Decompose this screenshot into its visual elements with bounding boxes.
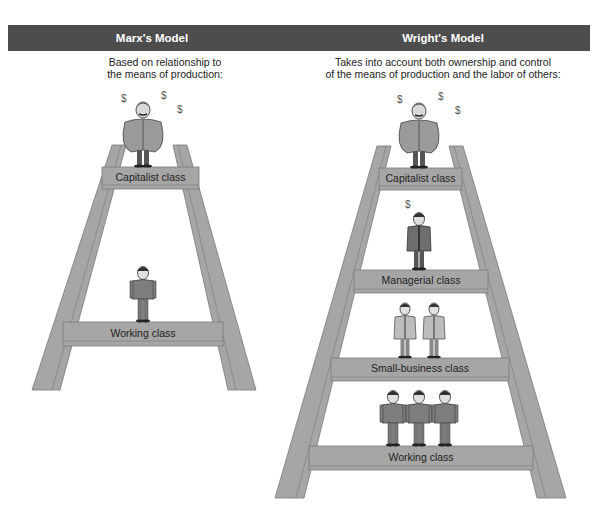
diagram-canvas (0, 0, 595, 507)
marx-capitalist-figure (123, 102, 163, 168)
wright-ladder-left-rail (275, 146, 391, 498)
marx-worker-figure (130, 267, 156, 323)
dollar-sign-icon: $ (455, 105, 461, 116)
wright-label-working-class: Working class (309, 451, 533, 463)
wright-label-managerial-class: Managerial class (354, 274, 488, 286)
wright-worker-figure-1 (380, 391, 406, 447)
dollar-sign-icon: $ (438, 91, 444, 102)
dollar-sign-icon: $ (121, 93, 127, 104)
wright-small-business-figure-1 (394, 303, 416, 358)
wright-capitalist-figure (399, 103, 439, 169)
marx-label-working-class: Working class (63, 327, 223, 339)
dollar-sign-icon: $ (177, 104, 183, 115)
wright-manager-figure (407, 213, 431, 271)
wright-label-small-business-class: Small-business class (331, 362, 509, 374)
wright-label-capitalist-class: Capitalist class (379, 172, 462, 184)
dollar-sign-icon: $ (397, 94, 403, 105)
wright-worker-figure-2 (406, 391, 432, 447)
dollar-sign-icon: $ (161, 90, 167, 101)
wright-small-business-figure-2 (423, 303, 445, 358)
marx-label-capitalist-class: Capitalist class (102, 171, 199, 183)
wright-ladder-right-rail (449, 146, 566, 498)
dollar-sign-icon: $ (405, 199, 411, 210)
wright-worker-figure-3 (432, 391, 458, 447)
